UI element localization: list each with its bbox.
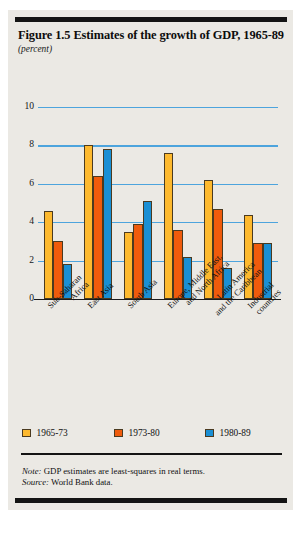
legend-swatch <box>205 429 214 438</box>
bar <box>84 145 94 299</box>
figure-panel: Figure 1.5 Estimates of the growth of GD… <box>8 10 293 510</box>
source-line: Source: World Bank data. <box>22 477 282 488</box>
bar <box>164 153 174 299</box>
legend-label: 1980-89 <box>220 428 251 438</box>
legend-item-1980-89[interactable]: 1980-89 <box>205 428 251 438</box>
figure-title: Figure 1.5 Estimates of the growth of GD… <box>18 28 286 42</box>
bar-group <box>38 107 78 299</box>
bar-group <box>118 107 158 299</box>
source-label: Source: <box>22 477 49 487</box>
y-tick-label: 10 <box>24 100 34 111</box>
title-block: Figure 1.5 Estimates of the growth of GD… <box>18 28 286 54</box>
note-rule <box>21 453 282 455</box>
note-label: Note: <box>22 466 42 476</box>
bar <box>93 176 103 299</box>
y-tick-label: 6 <box>29 177 34 188</box>
figure-units: (percent) <box>18 44 286 54</box>
bar <box>124 232 134 299</box>
bar-group <box>158 107 198 299</box>
bar-group <box>78 107 118 299</box>
legend-item-1965-73[interactable]: 1965-73 <box>22 428 68 438</box>
category-labels: Sub-SaharanAfricaEast AsiaSouth AsiaEuro… <box>38 302 283 397</box>
legend-item-1973-80[interactable]: 1973-80 <box>114 428 160 438</box>
notes-block: Note: GDP estimates are least-squares in… <box>22 466 282 488</box>
legend-label: 1965-73 <box>37 428 68 438</box>
source-text: World Bank data. <box>49 477 113 487</box>
bar <box>44 211 54 299</box>
top-rule <box>15 17 287 22</box>
bottom-rule <box>15 498 287 503</box>
y-tick-label: 8 <box>29 139 34 150</box>
y-tick-label: 0 <box>29 292 34 303</box>
note-line: Note: GDP estimates are least-squares in… <box>22 466 282 477</box>
legend-swatch <box>22 429 31 438</box>
y-tick-label: 4 <box>29 216 34 227</box>
bar <box>103 149 113 299</box>
y-tick-label: 2 <box>29 254 34 265</box>
legend-label: 1973-80 <box>129 428 160 438</box>
note-text: GDP estimates are least-squares in real … <box>42 466 205 476</box>
legend-swatch <box>114 429 123 438</box>
